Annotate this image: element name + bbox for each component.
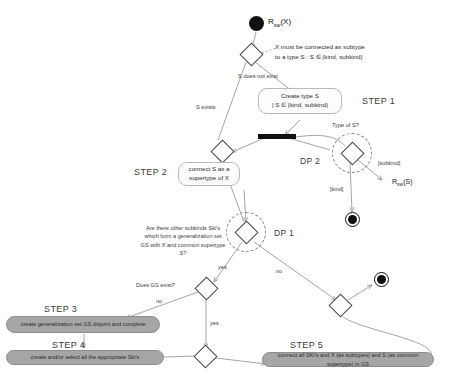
edge-label-dp1-yes: yes	[218, 264, 227, 270]
step-label-4: STEP 4	[52, 340, 85, 350]
rule-ref-rsw-s: Rsw(S)	[392, 178, 413, 187]
edge-label-s-exists: S exists	[196, 104, 216, 110]
action-connect-all[interactable]: connect all SKi's and X (as subtypes) an…	[262, 352, 434, 367]
action-connect-supertype-line1: connect S as a	[189, 165, 230, 174]
action-connect-supertype-line2: supertype of X	[189, 174, 229, 183]
action-create-select-ski[interactable]: create and/or select all the appropriate…	[6, 350, 164, 365]
edge-label-subkind: [subkind]	[378, 160, 400, 166]
action-create-type-s[interactable]: Create type S | S ∈ {kind, subkind}	[258, 88, 342, 114]
start-node-label: Rsw(X)	[268, 17, 291, 28]
dp2-label: DP 2	[300, 156, 320, 166]
final-node-main	[374, 272, 389, 287]
action-create-gs-text: create generalization set GS disjoint an…	[21, 320, 146, 328]
activity-diagram-canvas: Rsw(X) X must be connected as subtype to…	[0, 0, 452, 391]
action-create-type-s-line1: Create type S	[281, 92, 319, 101]
step-label-1: STEP 1	[362, 96, 395, 106]
action-connect-supertype[interactable]: connect S as a supertype of X	[178, 162, 240, 186]
decision-dp1-question: Are there other subkinds Ski's which for…	[140, 224, 226, 258]
edge-label-gs-no: no	[156, 298, 162, 304]
step-label-3: STEP 3	[44, 304, 77, 314]
decision-type-of-s-question: Type of S?	[332, 122, 359, 128]
edge-label-kind: [kind]	[330, 186, 343, 192]
final-node-kind-branch	[345, 212, 360, 227]
step-label-5: STEP 5	[290, 340, 323, 350]
action-create-type-s-line2: | S ∈ {kind, subkind}	[272, 101, 328, 110]
edge-label-gs-yes: yes	[210, 320, 219, 326]
merge-bar	[258, 134, 296, 139]
edge-label-s-does-not-exist: S does not exist	[232, 72, 284, 80]
action-create-select-ski-text: create and/or select all the appropriate…	[31, 353, 140, 361]
action-connect-all-text: connect all SKi's and X (as subtypes) an…	[268, 351, 428, 367]
action-create-gs[interactable]: create generalization set GS disjoint an…	[6, 316, 160, 333]
note-subtype-line1: X must be connected as subtype	[275, 42, 365, 51]
step-label-2: STEP 2	[134, 167, 167, 177]
dp1-label: DP 1	[274, 228, 294, 238]
note-subtype-line2: to a type S : S ∈ {kind, subkind}	[275, 52, 363, 61]
edge-label-dp1-no: no	[276, 268, 282, 274]
decision-gs-exist-question: Does GS exist?	[136, 282, 175, 288]
initial-node	[249, 16, 264, 31]
